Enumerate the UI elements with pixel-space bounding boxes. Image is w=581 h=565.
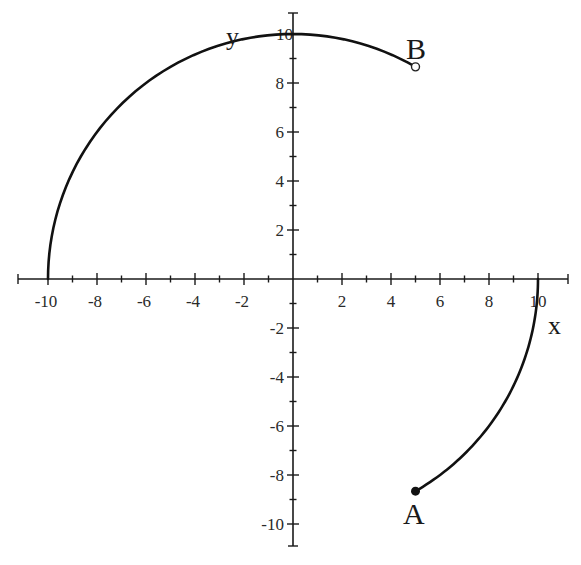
y-tick-label: -2 [270,319,284,338]
y-tick-label: 6 [276,123,285,142]
upper-arc-curve [48,34,416,279]
x-tick-label: -8 [88,292,102,311]
y-tick-label: -10 [261,515,284,534]
y-tick-label: -8 [270,466,284,485]
x-tick-label: 4 [387,292,396,311]
x-tick-label: -4 [186,292,201,311]
x-axis-title: x [548,311,561,340]
lower-arc-curve [416,279,539,491]
x-tick-label: -2 [235,292,249,311]
arc-chart: -10-8-6-4-2246810108642-2-4-6-8-10 y x B… [0,0,581,565]
y-tick-label: -6 [270,417,284,436]
x-tick-label: -6 [137,292,151,311]
y-tick-label: 8 [276,74,285,93]
x-tick-label: -10 [35,292,58,311]
point-a-label: A [403,497,425,530]
point-a-filled-marker [411,487,420,496]
y-tick-label: -4 [270,368,285,387]
y-tick-label: 4 [276,172,285,191]
x-tick-label: 8 [485,292,494,311]
point-b-label: B [406,32,426,65]
x-tick-label: 6 [436,292,445,311]
y-axis-title: y [226,22,239,51]
x-tick-label: 2 [338,292,347,311]
y-tick-label: 2 [276,221,285,240]
